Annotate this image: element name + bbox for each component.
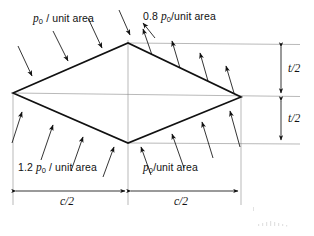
dimension-label-thickness-upper: t/2 — [288, 62, 300, 74]
dimension-label-chord-left: c/2 — [60, 195, 74, 207]
leader-line-upper-right-label — [143, 23, 155, 38]
pressure-arrows-upper-right — [143, 29, 234, 93]
figure-canvas: p0 / unit area 0.8 p0/unit area 1.2 p0 /… — [0, 0, 314, 236]
construction-lines — [13, 40, 300, 205]
scan-artifact — [245, 205, 305, 231]
airfoil-outline — [13, 43, 241, 143]
label-upper-left-pressure: p0 / unit area — [33, 12, 94, 26]
dimension-label-chord-right: c/2 — [174, 195, 188, 207]
label-upper-right-pressure: 0.8 p0/unit area — [143, 10, 216, 24]
label-lower-left-pressure: 1.2 p0 / unit area — [18, 161, 97, 175]
diagram-svg — [0, 0, 314, 236]
dimension-label-thickness-lower: t/2 — [288, 112, 300, 124]
label-lower-right-pressure: p0/unit area — [143, 161, 198, 175]
